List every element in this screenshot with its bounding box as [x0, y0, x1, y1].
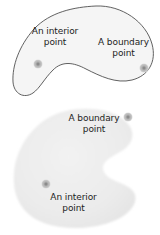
- label-bottom-interior-point: An interior point: [39, 192, 108, 213]
- dot-bottom-interior-core: [45, 183, 48, 186]
- label-line-2: point: [39, 203, 108, 214]
- label-line-1: An interior: [39, 192, 108, 203]
- dot-top-interior-core: [37, 63, 40, 66]
- figure-canvas: An interior point A boundary point A bou…: [0, 0, 160, 235]
- label-line-1: A boundary: [61, 113, 127, 124]
- dot-top-boundary-core: [143, 67, 146, 70]
- label-line-2: point: [61, 124, 127, 135]
- label-top-interior-point: An interior point: [24, 26, 86, 47]
- label-line-1: An interior: [24, 26, 86, 37]
- label-bottom-boundary-point: A boundary point: [61, 113, 127, 134]
- label-line-2: point: [24, 37, 86, 48]
- label-line-1: A boundary: [92, 37, 155, 48]
- label-line-2: point: [92, 48, 155, 59]
- label-top-boundary-point: A boundary point: [92, 37, 155, 58]
